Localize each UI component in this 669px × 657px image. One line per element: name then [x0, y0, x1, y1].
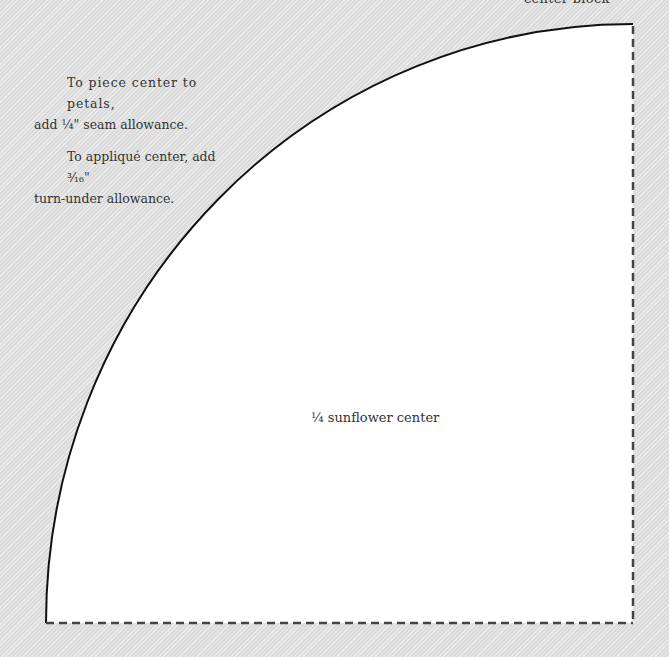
note-line: To appliqué center, add ³⁄₁₆" — [34, 146, 224, 188]
applique-allowance-note: To appliqué center, add ³⁄₁₆" turn-under… — [34, 146, 224, 209]
seam-allowance-note: To piece center to petals, add ¼" seam a… — [34, 72, 224, 135]
note-line: To piece center to petals, — [34, 72, 224, 114]
piece-label: ¼ sunflower center — [311, 410, 439, 425]
note-line: turn-under allowance. — [34, 191, 174, 206]
note-line: add ¼" seam allowance. — [34, 117, 188, 132]
center-block-label: center block — [524, 0, 610, 6]
